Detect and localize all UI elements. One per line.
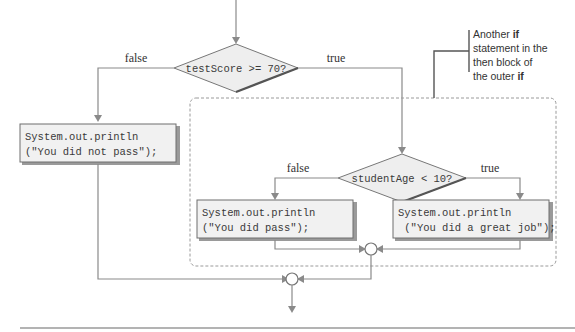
inner-false-arrow-icon: [271, 193, 279, 200]
flowchart-diagram: testScore >= 70? false true Another if s…: [0, 0, 575, 332]
inner-to-outer-merge-line: [301, 255, 371, 279]
inner-merge-connector: [365, 243, 377, 255]
exit-arrow-icon: [288, 306, 296, 313]
callout-line-2: statement in the: [473, 42, 548, 54]
callout-line-4: the outer if: [473, 70, 524, 82]
did-pass-line-1: System.out.println: [202, 207, 315, 219]
inner-false-flow-line: [275, 178, 338, 196]
outer-false-label: false: [125, 51, 148, 65]
did-pass-line-2: ("You did pass");: [202, 222, 309, 234]
inner-condition-text: studentAge < 10?: [352, 173, 453, 185]
entry-arrow-icon: [232, 37, 240, 44]
callout-line-3: then block of: [473, 56, 533, 68]
outer-false-arrow-icon: [94, 115, 102, 122]
inner-false-label: false: [287, 161, 310, 175]
not-pass-line-1: System.out.println: [25, 131, 138, 143]
outer-merge-connector: [286, 273, 298, 285]
inner-true-arrow-icon: [516, 193, 524, 200]
great-job-line-2: ("You did a great job");: [398, 222, 556, 234]
outer-false-flow-line: [98, 68, 174, 118]
great-job-line-1: System.out.println: [398, 207, 511, 219]
outer-true-label: true: [327, 51, 346, 65]
callout-leader-line: [434, 51, 469, 98]
outer-true-flow-line: [298, 68, 402, 150]
did-pass-to-merge-line: [275, 240, 362, 249]
outer-condition-text: testScore >= 70?: [186, 63, 287, 75]
great-job-to-merge-line: [380, 240, 520, 249]
not-pass-line-2: ("You did not pass");: [25, 146, 157, 158]
inner-true-label: true: [481, 161, 500, 175]
inner-entry-arrow-icon: [398, 147, 406, 154]
inner-true-flow-line: [466, 178, 520, 196]
callout-line-1: Another if: [473, 28, 520, 40]
